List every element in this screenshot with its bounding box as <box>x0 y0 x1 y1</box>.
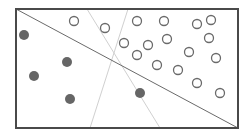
open-point-marker <box>216 89 225 98</box>
open-point-marker <box>193 20 202 29</box>
open-point-marker <box>212 54 221 63</box>
filled-point-marker <box>29 71 39 81</box>
open-point-marker <box>160 17 169 26</box>
open-point-marker <box>70 17 79 26</box>
filled-point-marker <box>65 94 75 104</box>
filled-point-marker <box>19 30 29 40</box>
plot-area <box>0 0 252 137</box>
open-point-marker <box>205 34 214 43</box>
light-separator-line-a <box>87 9 160 128</box>
filled-point-marker <box>135 88 145 98</box>
open-point-marker <box>153 61 162 70</box>
filled-point-marker <box>62 57 72 67</box>
open-point-marker <box>133 51 142 60</box>
open-point-marker <box>163 35 172 44</box>
open-point-marker <box>174 66 183 75</box>
open-point-marker <box>207 16 216 25</box>
open-point-marker <box>120 39 129 48</box>
open-point-marker <box>193 79 202 88</box>
svm-diagram <box>0 0 252 137</box>
dark-separator-line <box>16 9 238 128</box>
open-point-marker <box>133 17 142 26</box>
open-point-marker <box>144 41 153 50</box>
open-point-marker <box>185 48 194 57</box>
open-point-marker <box>101 24 110 33</box>
